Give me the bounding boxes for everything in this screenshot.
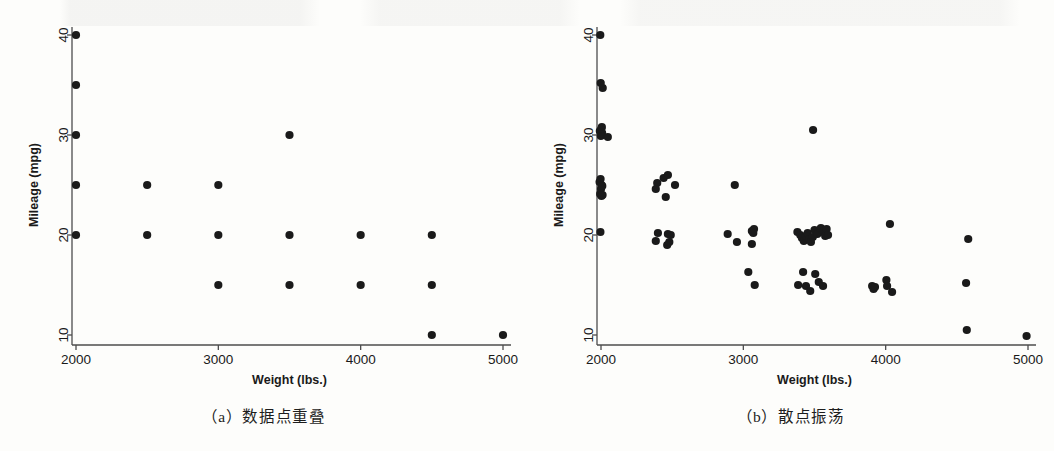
- data-point-group: [72, 31, 507, 339]
- data-point: [499, 331, 507, 339]
- x-axis-tick-label: 3000: [203, 352, 233, 367]
- data-point: [285, 281, 293, 289]
- data-point: [749, 229, 757, 237]
- data-point: [964, 235, 972, 243]
- x-axis-tick-label: 2000: [586, 352, 616, 367]
- x-axis-title: Weight (lbs.): [777, 373, 852, 387]
- y-axis-title: Mileage (mpg): [552, 143, 566, 227]
- data-point: [214, 281, 222, 289]
- data-point: [888, 288, 896, 296]
- data-point: [662, 193, 670, 201]
- data-point: [428, 281, 436, 289]
- y-axis-tick-label: 10: [581, 327, 596, 342]
- data-point: [806, 287, 814, 295]
- data-point: [72, 181, 80, 189]
- data-point: [652, 237, 660, 245]
- data-point: [667, 231, 675, 239]
- data-point: [357, 281, 365, 289]
- data-point: [1022, 332, 1030, 340]
- data-point: [733, 238, 741, 246]
- data-point: [671, 181, 679, 189]
- y-axis-tick-label: 40: [581, 27, 596, 42]
- data-point: [751, 281, 759, 289]
- y-axis-tick-label: 20: [56, 227, 71, 242]
- y-axis-tick-label: 40: [56, 27, 71, 42]
- data-point: [428, 331, 436, 339]
- x-axis-tick-label: 3000: [728, 352, 758, 367]
- data-point: [357, 231, 365, 239]
- data-point: [724, 230, 732, 238]
- data-point: [665, 238, 673, 246]
- data-point: [664, 171, 672, 179]
- data-point: [748, 240, 756, 248]
- data-point: [886, 220, 894, 228]
- data-point: [596, 228, 604, 236]
- data-point: [604, 133, 612, 141]
- data-point: [799, 268, 807, 276]
- data-point: [598, 123, 606, 131]
- y-axis-title: Mileage (mpg): [27, 143, 41, 227]
- caption-panel-b: （b）散点振荡: [527, 404, 1054, 426]
- x-axis-tick-label: 2000: [61, 352, 91, 367]
- data-point: [214, 181, 222, 189]
- y-axis-tick-label: 30: [581, 127, 596, 142]
- data-point: [72, 81, 80, 89]
- data-point: [285, 231, 293, 239]
- data-point: [285, 131, 293, 139]
- x-axis-title: Weight (lbs.): [252, 373, 327, 387]
- caption-panel-a: （a）数据点重叠: [0, 404, 527, 426]
- panel-a: 102030402000300040005000Weight (lbs.)Mil…: [0, 0, 527, 451]
- data-point: [214, 231, 222, 239]
- data-point: [824, 231, 832, 239]
- data-point: [72, 231, 80, 239]
- data-point: [598, 191, 606, 199]
- x-axis-tick-label: 4000: [871, 352, 901, 367]
- x-axis-tick-label: 4000: [346, 352, 376, 367]
- data-point: [819, 282, 827, 290]
- panel-b: 102030402000300040005000Weight (lbs.)Mil…: [527, 0, 1054, 451]
- data-point: [599, 84, 607, 92]
- data-point: [731, 181, 739, 189]
- data-point-group: [595, 31, 1030, 340]
- data-point: [744, 268, 752, 276]
- data-point: [962, 279, 970, 287]
- data-point: [143, 181, 151, 189]
- data-point: [871, 283, 879, 291]
- scatter-plot-b: 102030402000300040005000Weight (lbs.)Mil…: [527, 0, 1054, 400]
- data-point: [794, 281, 802, 289]
- scatter-plot-a: 102030402000300040005000Weight (lbs.)Mil…: [0, 0, 527, 400]
- data-point: [72, 131, 80, 139]
- data-point: [811, 270, 819, 278]
- data-point: [654, 229, 662, 237]
- y-axis-tick-label: 10: [56, 327, 71, 342]
- data-point: [809, 126, 817, 134]
- y-axis-tick-label: 20: [581, 227, 596, 242]
- x-axis-tick-label: 5000: [1013, 352, 1043, 367]
- data-point: [596, 31, 604, 39]
- data-point: [72, 31, 80, 39]
- data-point: [598, 182, 606, 190]
- data-point: [428, 231, 436, 239]
- data-point: [597, 132, 605, 140]
- x-axis-tick-label: 5000: [488, 352, 518, 367]
- data-point: [143, 231, 151, 239]
- data-point: [963, 326, 971, 334]
- figure-container: 102030402000300040005000Weight (lbs.)Mil…: [0, 0, 1054, 451]
- y-axis-tick-label: 30: [56, 127, 71, 142]
- data-point: [652, 185, 660, 193]
